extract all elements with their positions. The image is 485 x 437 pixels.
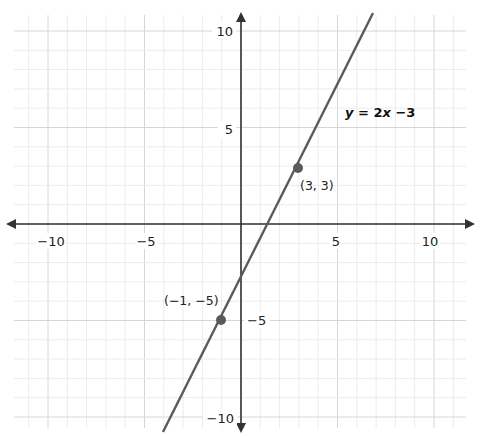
equation-tail: −3 <box>391 105 415 120</box>
x-tick-label: 10 <box>422 234 439 249</box>
equation-mid: = 2 <box>353 105 382 120</box>
y-axis-up-arrow-icon <box>236 12 246 22</box>
y-tick-label: −10 <box>207 411 234 426</box>
point-label-3-3: (3, 3) <box>300 178 334 193</box>
point-label-neg1-neg5: (−1, −5) <box>164 293 219 308</box>
x-tick-labels: −10 −5 5 10 <box>36 233 440 249</box>
y-tick-label: 5 <box>225 122 233 137</box>
y-tick-label: 10 <box>216 24 233 39</box>
grid <box>14 15 466 428</box>
axes <box>6 12 475 433</box>
x-tick-label: 5 <box>332 234 340 249</box>
line-y-equals-2x-minus-3 <box>163 13 373 432</box>
x-tick-label: −5 <box>136 234 155 249</box>
x-axis-left-arrow-icon <box>6 219 16 229</box>
x-tick-label: −10 <box>37 234 64 249</box>
x-axis-right-arrow-icon <box>465 219 475 229</box>
y-tick-label: −5 <box>247 313 266 328</box>
point-neg1-neg5 <box>216 315 226 325</box>
equation-label: y = 2x −3 <box>345 105 415 120</box>
point-3-3 <box>293 163 303 173</box>
coordinate-plane: −10 −5 5 10 10 5 −5 −10 (3, 3) (−1, −5) … <box>0 0 485 437</box>
y-axis-down-arrow-icon <box>236 423 246 433</box>
